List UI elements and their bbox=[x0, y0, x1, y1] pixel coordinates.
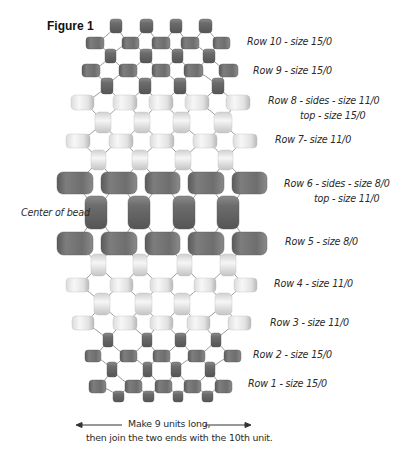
row-1-label: Row 1 - size 15/0 bbox=[248, 378, 327, 389]
bead-row2-top-1 bbox=[103, 333, 113, 347]
bead-row4-1 bbox=[66, 278, 89, 292]
bead-row3-top-3 bbox=[174, 293, 190, 315]
bead-row9-top-3 bbox=[172, 49, 183, 63]
bead-row6-top-2 bbox=[132, 150, 148, 170]
bead-row6-sides-3 bbox=[145, 172, 180, 194]
bead-row8-top-1 bbox=[101, 78, 113, 94]
bead-row6-top-4 bbox=[218, 150, 233, 170]
bead-row4-5 bbox=[234, 278, 257, 292]
bead-row6-sides-1 bbox=[57, 172, 93, 194]
bead-row6-sides-4 bbox=[188, 172, 224, 194]
bead-row10-4 bbox=[181, 37, 199, 49]
right-arrowhead-icon bbox=[245, 423, 251, 428]
row-9-label: Row 9 - size 15/0 bbox=[253, 65, 332, 76]
figure-title: Figure 1 bbox=[47, 19, 94, 33]
bead-row3-top-1 bbox=[94, 293, 110, 315]
bead-row7-5 bbox=[233, 134, 257, 148]
bead-row3-1 bbox=[72, 316, 94, 330]
bead-row7-top-3 bbox=[173, 112, 190, 133]
bead-row10-top-3 bbox=[170, 19, 182, 33]
bead-row10-top-2 bbox=[140, 19, 153, 33]
bead-row4-top-1 bbox=[91, 254, 106, 276]
bead-row6-sides-2 bbox=[101, 172, 137, 194]
bead-row2-2 bbox=[120, 350, 137, 362]
bead-row1-2 bbox=[125, 380, 142, 393]
bead-row8-sides-3 bbox=[149, 95, 173, 110]
row-5-label: Row 5 - size 8/0 bbox=[285, 236, 358, 247]
bead-row8-top-4 bbox=[212, 78, 224, 94]
bead-row4-3 bbox=[150, 278, 173, 292]
bead-row4-4 bbox=[194, 278, 216, 292]
bead-row4-top-4 bbox=[220, 254, 236, 276]
bead-row7-3 bbox=[150, 134, 174, 148]
bead-row2-top-4 bbox=[211, 333, 221, 347]
bead-row5-5 bbox=[232, 232, 267, 255]
bead-row5-1 bbox=[57, 232, 93, 255]
bead-row2-top-2 bbox=[142, 333, 152, 347]
bead-row5-3 bbox=[145, 232, 180, 255]
bead-row9-top-1 bbox=[105, 49, 116, 63]
bead-row1-top-2 bbox=[143, 362, 152, 377]
row-8-top-label: top - size 15/0 bbox=[300, 110, 365, 121]
bead-center-4 bbox=[217, 196, 239, 229]
bead-row3-5 bbox=[228, 316, 251, 330]
bead-row9-4 bbox=[184, 64, 203, 77]
row-7-label: Row 7- size 11/0 bbox=[275, 134, 351, 145]
bead-row1-5 bbox=[215, 380, 232, 393]
bead-row1-top-1 bbox=[107, 362, 117, 377]
bead-row7-top-1 bbox=[95, 112, 111, 133]
bead-row2-1 bbox=[85, 350, 101, 362]
bead-row7-top-4 bbox=[214, 112, 232, 133]
bead-row10-3 bbox=[152, 37, 170, 49]
bead-row2-top-3 bbox=[175, 333, 186, 347]
bead-row7-1 bbox=[66, 134, 90, 148]
beadwork-diagram bbox=[0, 0, 397, 469]
bead-row5-2 bbox=[101, 232, 137, 255]
bead-row8-top-3 bbox=[174, 78, 186, 94]
bead-row6-sides-5 bbox=[232, 172, 267, 194]
bead-row7-2 bbox=[109, 134, 133, 148]
bead-row3-3 bbox=[150, 316, 173, 330]
bead-row9-3 bbox=[152, 64, 170, 77]
bead-row6-top-3 bbox=[175, 150, 191, 170]
bead-row1-bottom-4 bbox=[202, 391, 213, 402]
instruction-line-1: Make 9 units long, bbox=[128, 418, 210, 429]
bead-row9-top-4 bbox=[203, 49, 215, 63]
bead-row6-top-1 bbox=[91, 150, 106, 170]
bead-row9-5 bbox=[219, 64, 238, 77]
bead-row2-5 bbox=[224, 350, 241, 362]
bead-row7-4 bbox=[193, 134, 217, 148]
bead-row1-bottom-2 bbox=[143, 391, 154, 402]
center-of-bead-label: Center of bead bbox=[21, 207, 90, 218]
bead-row3-top-2 bbox=[135, 293, 152, 315]
bead-row10-top-4 bbox=[199, 19, 212, 33]
bead-row9-1 bbox=[82, 64, 100, 77]
bead-center-3 bbox=[173, 196, 195, 229]
bead-row8-top-2 bbox=[139, 78, 151, 94]
instruction-line-2: then join the two ends with the 10th uni… bbox=[86, 432, 273, 443]
bead-row9-2 bbox=[119, 64, 137, 77]
bead-row1-top-3 bbox=[171, 362, 181, 377]
bead-row8-sides-5 bbox=[226, 95, 250, 110]
row-10-label: Row 10 - size 15/0 bbox=[247, 36, 332, 47]
bead-row9-top-2 bbox=[140, 49, 152, 63]
bead-row10-1 bbox=[86, 37, 104, 49]
bead-row2-4 bbox=[188, 350, 205, 362]
bead-row3-2 bbox=[113, 316, 137, 330]
row-6-sides-label: Row 6 - sides - size 8/0 bbox=[284, 178, 390, 189]
bead-row1-top-4 bbox=[205, 362, 215, 377]
bead-row10-2 bbox=[122, 37, 139, 49]
row-2-label: Row 2 - size 15/0 bbox=[253, 349, 332, 360]
bead-row4-2 bbox=[110, 278, 133, 292]
bead-center-2 bbox=[128, 196, 150, 229]
bead-row8-sides-2 bbox=[113, 95, 137, 110]
bead-row3-4 bbox=[187, 316, 210, 330]
row-8-sides-label: Row 8 - sides - size 11/0 bbox=[268, 95, 380, 106]
bead-row1-bottom-3 bbox=[173, 391, 183, 402]
bead-row1-3 bbox=[155, 380, 172, 393]
left-arrowhead-icon bbox=[76, 423, 82, 428]
bead-row10-5 bbox=[213, 37, 230, 49]
row-3-label: Row 3 - size 11/0 bbox=[270, 317, 349, 328]
bead-row8-sides-4 bbox=[185, 95, 209, 110]
bead-row4-top-2 bbox=[133, 254, 147, 276]
